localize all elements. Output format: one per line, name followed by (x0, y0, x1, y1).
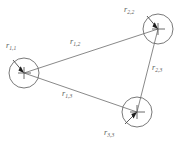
label-r11: r1,1 (6, 41, 16, 51)
body-1-group (9, 58, 39, 88)
body-3-group (122, 97, 152, 127)
label-r13: r1,3 (62, 89, 72, 99)
body-2-position-vector-arrow (147, 16, 158, 29)
edge-line-r12 (24, 29, 158, 73)
label-r12: r1,2 (70, 37, 80, 47)
label-r33: r3,3 (104, 128, 114, 138)
body-1-position-vector-arrow (13, 60, 24, 73)
vector-diagram-canvas: r1,1 r2,2 r3,3 r1,2 r2,3 r1,3 (0, 0, 184, 143)
label-r22: r2,2 (124, 5, 134, 15)
label-r23: r2,3 (152, 63, 162, 73)
body-3-position-vector-arrow (125, 112, 137, 124)
body-2-group (143, 14, 173, 44)
edge-group (24, 29, 158, 112)
edge-line-r13 (24, 73, 137, 112)
